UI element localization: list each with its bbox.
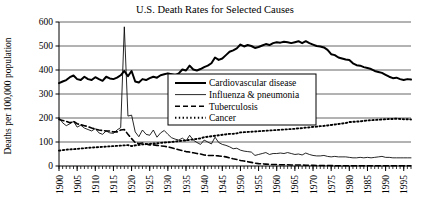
x-tick-label: 1960 bbox=[272, 175, 282, 194]
y-tick-label: 100 bbox=[39, 137, 54, 147]
x-tick-label: 1920 bbox=[127, 175, 137, 194]
x-tick-label: 1985 bbox=[363, 175, 373, 194]
x-tick-label: 1945 bbox=[218, 175, 228, 194]
legend-label: Cancer bbox=[209, 113, 237, 123]
legend-label: Cardiovascular disease bbox=[209, 78, 296, 88]
x-tick-label: 1910 bbox=[91, 175, 101, 194]
x-tick-label: 1925 bbox=[145, 175, 155, 194]
y-tick-label: 300 bbox=[39, 89, 54, 99]
legend-label: Influenza & pneumonia bbox=[209, 90, 300, 100]
chart-legend: Cardiovascular diseaseInfluenza & pneumo… bbox=[168, 74, 316, 125]
y-tick-label: 600 bbox=[39, 17, 54, 27]
x-tick-label: 1930 bbox=[163, 175, 173, 194]
y-axis-label: Deaths per 100,000 population bbox=[3, 37, 13, 154]
y-tick-label: 200 bbox=[39, 113, 54, 123]
chart-title: U.S. Death Rates for Selected Causes bbox=[136, 4, 294, 15]
x-tick-label: 1975 bbox=[327, 175, 337, 194]
x-tick-label: 1955 bbox=[254, 175, 264, 194]
y-tick-label: 0 bbox=[48, 161, 53, 171]
x-tick-label: 1965 bbox=[290, 175, 300, 194]
x-tick-label: 1950 bbox=[236, 175, 246, 194]
x-tick-label: 1900 bbox=[55, 175, 65, 194]
y-tick-label: 500 bbox=[39, 41, 54, 51]
legend-label: Tuberculosis bbox=[209, 102, 258, 112]
chart-container: U.S. Death Rates for Selected Causes Dea… bbox=[0, 0, 424, 212]
x-tick-label: 1970 bbox=[309, 175, 319, 194]
x-tick-label: 1915 bbox=[109, 175, 119, 194]
x-tick-label: 1935 bbox=[182, 175, 192, 194]
x-tick-label: 1990 bbox=[381, 175, 391, 194]
death-rates-line-chart: U.S. Death Rates for Selected Causes Dea… bbox=[0, 0, 424, 212]
x-tick-label: 1980 bbox=[345, 175, 355, 194]
y-tick-label: 400 bbox=[39, 65, 54, 75]
x-tick-label: 1905 bbox=[73, 175, 83, 194]
x-tick-label: 1940 bbox=[200, 175, 210, 194]
x-tick-label: 1995 bbox=[399, 175, 409, 194]
